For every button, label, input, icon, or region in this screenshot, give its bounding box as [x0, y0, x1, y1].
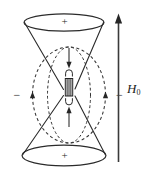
upper-cone-left-side — [25, 23, 64, 90]
lower-pole-charge-label: + — [61, 149, 67, 161]
right-field-arrowhead — [103, 92, 108, 99]
hatched-sample-rod — [65, 79, 72, 97]
field-label-group: H0 — [126, 81, 140, 97]
lower-coil-loop — [66, 98, 73, 105]
upper-pole-charge-label: + — [61, 15, 67, 27]
figure-container: + + − − — [0, 0, 149, 177]
central-sample-assembly — [65, 48, 72, 127]
field-arrowhead — [115, 14, 122, 24]
upper-coil-loop — [66, 70, 73, 77]
left-charge-label: − — [14, 88, 21, 102]
upper-coil-arc — [66, 70, 73, 73]
right-charge-label: − — [116, 88, 123, 102]
applied-field-arrow: H0 — [115, 14, 140, 163]
field-symbol-text: H — [126, 81, 137, 96]
left-field-arrowhead — [30, 92, 35, 99]
lower-axis-arrowhead — [66, 107, 71, 114]
lower-pole-piece: + — [22, 96, 106, 166]
upper-axis-arrowhead — [66, 62, 71, 69]
field-diagram-svg: + + − − — [0, 0, 149, 177]
field-subscript-text: 0 — [136, 88, 140, 97]
lower-coil-arc — [66, 102, 73, 105]
upper-pole-piece: + — [24, 14, 104, 90]
